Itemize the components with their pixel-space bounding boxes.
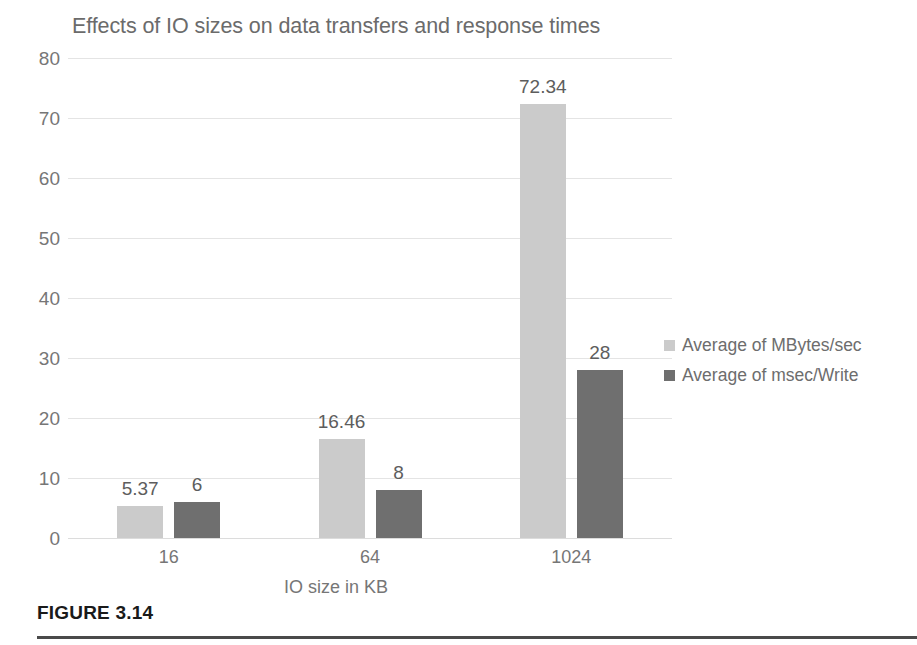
- chart-title: Effects of IO sizes on data transfers an…: [72, 13, 600, 39]
- legend-swatch-icon: [664, 340, 675, 351]
- gridline: [68, 538, 672, 539]
- y-axis-tick-label: 30: [14, 349, 60, 368]
- gridline: [68, 58, 672, 59]
- bar-value-label: 72.34: [498, 77, 588, 96]
- bar-average-of-msec-write-64: [376, 490, 422, 538]
- bar-value-label: 28: [555, 343, 645, 362]
- x-axis-title: IO size in KB: [0, 578, 672, 596]
- figure-caption: FIGURE 3.14: [37, 602, 153, 624]
- legend-label: Average of msec/Write: [682, 366, 858, 384]
- bar-value-label: 8: [354, 463, 444, 482]
- legend-swatch-icon: [664, 370, 675, 381]
- y-axis-tick-label: 20: [14, 409, 60, 428]
- y-axis-tick-label: 40: [14, 289, 60, 308]
- bar-average-of-msec-write-16: [174, 502, 220, 538]
- y-axis-tick-label: 0: [14, 529, 60, 548]
- x-axis-tick-label: 64: [310, 548, 430, 566]
- caption-rule: [37, 636, 917, 639]
- x-axis-tick-label: 16: [109, 548, 229, 566]
- chart-legend: Average of MBytes/secAverage of msec/Wri…: [664, 330, 912, 390]
- y-axis-tick-label: 50: [14, 229, 60, 248]
- figure-container: Effects of IO sizes on data transfers an…: [0, 0, 917, 645]
- legend-item[interactable]: Average of msec/Write: [664, 360, 912, 390]
- bar-value-label: 6: [152, 475, 242, 494]
- plot-area: 5.37616.46872.3428: [68, 58, 672, 538]
- gridline: [68, 178, 672, 179]
- gridline: [68, 238, 672, 239]
- bar-value-label: 16.46: [297, 412, 387, 431]
- gridline: [68, 298, 672, 299]
- legend-label: Average of MBytes/sec: [682, 336, 862, 354]
- y-axis-tick-label: 70: [14, 109, 60, 128]
- x-axis-tick-label: 1024: [511, 548, 631, 566]
- legend-item[interactable]: Average of MBytes/sec: [664, 330, 912, 360]
- bar-average-of-mbytes-sec-16: [117, 506, 163, 538]
- bar-average-of-mbytes-sec-64: [319, 439, 365, 538]
- bar-average-of-msec-write-1024: [577, 370, 623, 538]
- y-axis-tick-label: 80: [14, 49, 60, 68]
- y-axis: 80706050403020100: [8, 58, 60, 538]
- bar-average-of-mbytes-sec-1024: [520, 104, 566, 538]
- gridline: [68, 118, 672, 119]
- y-axis-tick-label: 60: [14, 169, 60, 188]
- y-axis-tick-label: 10: [14, 469, 60, 488]
